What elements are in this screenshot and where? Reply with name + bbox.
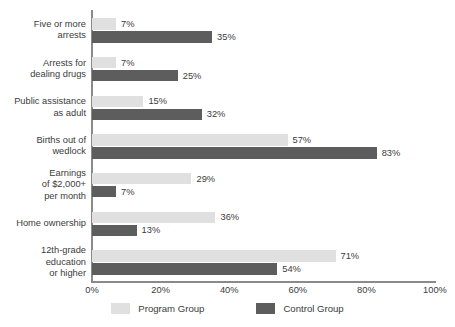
category-label: Earnings of $2,000+ per month (0, 168, 86, 203)
x-axis-line (91, 281, 436, 283)
bar-value-label: 57% (293, 134, 312, 145)
category-group: Five or more arrests7%35% (92, 10, 435, 49)
legend-item-program[interactable]: Program Group (111, 303, 204, 314)
bar-row: 7% (92, 57, 435, 69)
category-label: Arrests for dealing drugs (0, 58, 86, 81)
bar-value-label: 25% (183, 70, 202, 81)
bar-control-group (92, 70, 178, 82)
category-label: Births out of wedlock (0, 135, 86, 158)
legend-swatch-icon (111, 303, 130, 314)
x-axis-tick: 60% (288, 285, 307, 295)
bar-value-label: 35% (217, 31, 236, 42)
category-group: Home ownership36%13% (92, 204, 435, 243)
bar-row: 13% (92, 225, 435, 237)
bar-row: 7% (92, 18, 435, 30)
bar-row: 35% (92, 31, 435, 43)
bar-row: 7% (92, 186, 435, 198)
bar-chart: Five or more arrests7%35%Arrests for dea… (0, 0, 455, 327)
bar-program-group (92, 250, 336, 262)
category-group: Arrests for dealing drugs7%25% (92, 49, 435, 88)
bar-program-group (92, 134, 288, 146)
bar-program-group (92, 173, 191, 185)
bar-program-group (92, 18, 116, 30)
bar-value-label: 36% (220, 212, 239, 223)
plot-area: Five or more arrests7%35%Arrests for dea… (92, 10, 435, 281)
category-group: 12th-grade education or higher71%54% (92, 242, 435, 281)
legend-label: Control Group (283, 303, 343, 314)
bar-row: 54% (92, 263, 435, 275)
category-group: Public assistance as adult15%32% (92, 87, 435, 126)
bar-value-label: 71% (341, 251, 360, 262)
bar-row: 57% (92, 134, 435, 146)
category-label: 12th-grade education or higher (0, 245, 86, 280)
bar-control-group (92, 109, 202, 121)
bar-control-group (92, 263, 277, 275)
legend-swatch-icon (256, 303, 275, 314)
bar-value-label: 13% (142, 225, 161, 236)
legend-item-control[interactable]: Control Group (256, 303, 343, 314)
bar-row: 29% (92, 173, 435, 185)
bar-control-group (92, 225, 137, 237)
bar-value-label: 29% (196, 173, 215, 184)
bar-row: 25% (92, 70, 435, 82)
legend-label: Program Group (138, 303, 204, 314)
bar-value-label: 54% (282, 264, 301, 275)
bar-row: 83% (92, 147, 435, 159)
category-group: Births out of wedlock57%83% (92, 126, 435, 165)
bar-value-label: 32% (207, 109, 226, 120)
bar-program-group (92, 96, 143, 108)
bar-program-group (92, 57, 116, 69)
bar-row: 32% (92, 109, 435, 121)
bar-value-label: 83% (382, 147, 401, 158)
bar-value-label: 7% (121, 18, 134, 29)
x-axis-tick: 100% (423, 285, 447, 295)
x-axis-tick: 0% (85, 285, 98, 295)
bar-row: 15% (92, 96, 435, 108)
x-axis-tick: 80% (357, 285, 376, 295)
x-axis-tick: 40% (220, 285, 239, 295)
bar-value-label: 7% (121, 57, 134, 68)
category-label: Public assistance as adult (0, 96, 86, 119)
x-axis-tick: 20% (151, 285, 170, 295)
bar-program-group (92, 212, 215, 224)
bar-row: 71% (92, 250, 435, 262)
bar-row: 36% (92, 212, 435, 224)
bar-control-group (92, 186, 116, 198)
bar-value-label: 7% (121, 186, 134, 197)
bar-value-label: 15% (148, 96, 167, 107)
category-label: Home ownership (0, 218, 86, 230)
bar-control-group (92, 147, 377, 159)
chart-legend: Program GroupControl Group (0, 303, 455, 314)
category-group: Earnings of $2,000+ per month29%7% (92, 165, 435, 204)
bar-control-group (92, 31, 212, 43)
category-label: Five or more arrests (0, 19, 86, 42)
